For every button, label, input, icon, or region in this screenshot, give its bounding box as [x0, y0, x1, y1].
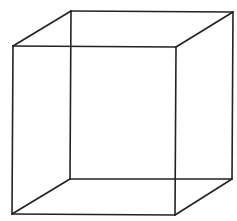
- cube-drawing: [0, 0, 237, 221]
- back-top-edge: [71, 11, 233, 12]
- connector-top-left-edge: [13, 11, 71, 46]
- front-bottom-edge: [12, 214, 175, 215]
- back-right-edge: [232, 12, 233, 179]
- front-top-edge: [13, 46, 176, 47]
- back-left-edge: [70, 11, 71, 179]
- connector-bottom-right-edge: [175, 179, 232, 215]
- connector-bottom-left-edge: [12, 179, 70, 214]
- front-left-edge: [12, 46, 13, 214]
- front-right-edge: [175, 47, 176, 215]
- connector-top-right-edge: [176, 12, 233, 47]
- cube-edges: [12, 11, 233, 215]
- cube-diagram: [0, 0, 237, 221]
